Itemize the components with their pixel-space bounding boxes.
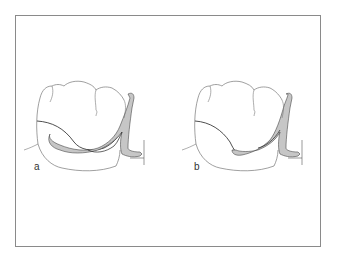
panel-b — [182, 81, 302, 171]
gingiva-line-a — [24, 144, 38, 150]
gingiva-line-b — [182, 144, 196, 150]
cusp-line-b1 — [208, 86, 211, 102]
tooth-outline-b — [195, 81, 282, 171]
cusp-line-b2 — [253, 90, 255, 116]
clasp-arm-b — [232, 93, 300, 157]
panel-label-a: a — [34, 162, 40, 172]
panel-a — [24, 81, 144, 171]
cusp-line-a2 — [95, 90, 97, 116]
cusp-line-a1 — [50, 86, 53, 102]
panel-label-b: b — [194, 162, 200, 172]
tooth-outline-a — [37, 81, 124, 171]
survey-line-b — [195, 121, 236, 152]
dental-clasp-illustration — [0, 0, 342, 264]
